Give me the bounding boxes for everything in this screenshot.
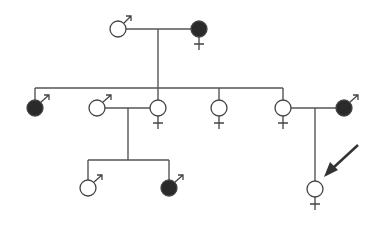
male-sign-icon (175, 175, 183, 182)
individual-II-3[interactable] (150, 100, 166, 129)
male-unaffected-symbol (89, 100, 105, 116)
individual-I-2[interactable] (191, 21, 207, 50)
individual-II-6[interactable] (336, 95, 358, 116)
female-sign-icon (310, 197, 320, 210)
male-affected-symbol (27, 100, 43, 116)
female-unaffected-symbol (211, 100, 227, 116)
male-affected-symbol (161, 180, 177, 196)
female-sign-icon (214, 116, 224, 129)
individual-I-1[interactable] (110, 16, 131, 37)
proband-arrow-icon (324, 145, 358, 177)
male-sign-icon (350, 95, 358, 102)
individual-II-1[interactable] (27, 95, 49, 116)
individual-II-4[interactable] (211, 100, 227, 129)
female-sign-icon (278, 116, 288, 129)
individual-II-5[interactable] (275, 100, 291, 129)
male-affected-symbol (336, 100, 352, 116)
individual-II-2[interactable] (89, 95, 111, 116)
male-sign-icon (124, 16, 131, 23)
female-sign-icon (153, 116, 163, 129)
female-unaffected-symbol (307, 181, 323, 197)
male-sign-icon (103, 95, 111, 102)
male-sign-icon (41, 95, 49, 102)
male-unaffected-symbol (80, 180, 96, 196)
pedigree-diagram (0, 0, 374, 225)
male-unaffected-symbol (110, 21, 126, 37)
female-unaffected-symbol (150, 100, 166, 116)
female-unaffected-symbol (275, 100, 291, 116)
individual-III-1[interactable] (80, 175, 102, 196)
female-affected-symbol (191, 21, 207, 37)
individual-III-2[interactable] (161, 175, 183, 196)
individual-III-3-proband[interactable] (307, 181, 323, 210)
male-sign-icon (94, 175, 102, 182)
female-sign-icon (194, 37, 204, 50)
